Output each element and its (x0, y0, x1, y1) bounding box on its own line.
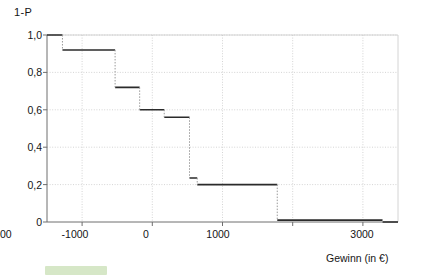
axis-ticks (43, 35, 363, 226)
scan-artifact-smudge (45, 266, 107, 275)
step-drop-lines (62, 35, 398, 222)
chart-container: 1-P Gewinn (in €) 1,0 0,8 0,6 0,4 0,2 0 … (0, 0, 422, 278)
plot-area (0, 0, 422, 278)
gridlines (47, 35, 398, 222)
